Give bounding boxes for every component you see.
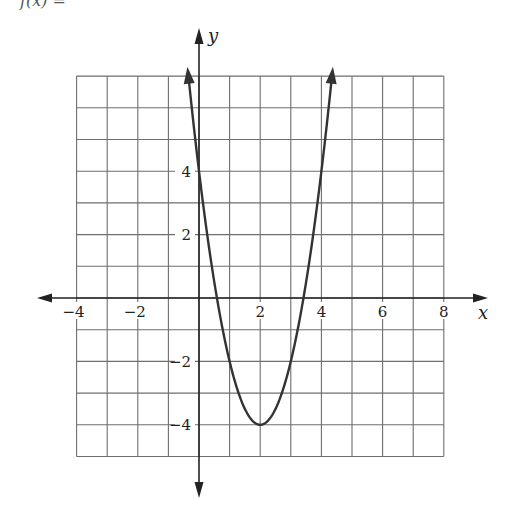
x-tick-label: −4 <box>63 303 85 321</box>
y-tick-label: −4 <box>169 416 191 434</box>
y-axis-up-arrow-icon <box>195 28 204 44</box>
curve-right-arrow-icon <box>326 67 337 84</box>
x-tick-label: 2 <box>255 303 265 321</box>
curve-left-arrow-icon <box>184 67 195 84</box>
x-axis-left-arrow-icon <box>37 294 52 303</box>
x-axis-label: x <box>478 302 488 323</box>
x-tick-label: −2 <box>124 303 146 321</box>
y-tick-label: 4 <box>181 163 191 181</box>
y-tick-label: 2 <box>181 226 191 244</box>
x-tick-label: 4 <box>317 303 327 321</box>
x-tick-label: 6 <box>378 303 388 321</box>
cut-off-title: f(x) = <box>19 0 66 10</box>
axes: xy <box>37 25 488 498</box>
x-tick-label: 8 <box>439 303 449 321</box>
function-graph: f(x) = xy −4−2246842−2−4 <box>0 0 512 506</box>
grid <box>77 76 444 456</box>
y-axis-down-arrow-icon <box>195 482 204 498</box>
y-tick-label: −2 <box>169 353 191 371</box>
y-axis-label: y <box>207 25 219 46</box>
